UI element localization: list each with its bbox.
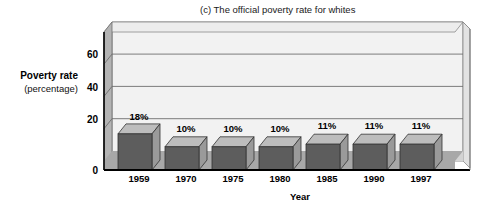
x-label-1970: 1970 xyxy=(175,173,196,184)
x-axis-title: Year xyxy=(290,191,310,202)
bar-value-1970: 10% xyxy=(176,123,196,134)
poverty-rate-bar-chart: (c) The official poverty rate for whites… xyxy=(0,0,496,215)
plot-left-wall xyxy=(104,22,112,170)
chart-page: (c) The official poverty rate for whites… xyxy=(0,0,496,215)
bar-1975 xyxy=(212,137,254,170)
x-label-1975: 1975 xyxy=(222,173,244,184)
y-tick-0: 0 xyxy=(92,165,98,176)
bar-value-1990: 11% xyxy=(365,120,384,131)
y-tick-60: 60 xyxy=(87,49,99,60)
bar-value-1959: 18% xyxy=(129,111,149,122)
y-axis-title: Poverty rate xyxy=(20,70,78,81)
y-axis-subtitle: (percentage) xyxy=(24,83,78,94)
plot-ceiling xyxy=(104,22,463,32)
bar-1970 xyxy=(165,137,207,170)
bar-1985 xyxy=(306,134,348,170)
x-label-1980: 1980 xyxy=(269,173,290,184)
y-tick-40: 40 xyxy=(87,82,99,93)
x-label-1985: 1985 xyxy=(316,173,338,184)
bar-value-1975: 10% xyxy=(223,123,243,134)
bar-value-1997: 11% xyxy=(412,120,431,131)
chart-title: (c) The official poverty rate for whites xyxy=(200,4,356,15)
plot-right-wall xyxy=(463,22,470,168)
x-label-1959: 1959 xyxy=(128,173,149,184)
bar-value-1985: 11% xyxy=(318,120,337,131)
bar-1980 xyxy=(259,137,301,170)
y-tick-20: 20 xyxy=(87,114,99,125)
x-label-1997: 1997 xyxy=(410,173,431,184)
bar-1990 xyxy=(353,134,395,170)
x-label-1990: 1990 xyxy=(363,173,384,184)
bar-1959 xyxy=(118,124,160,170)
bar-value-1980: 10% xyxy=(270,123,290,134)
bar-1997 xyxy=(400,134,442,170)
